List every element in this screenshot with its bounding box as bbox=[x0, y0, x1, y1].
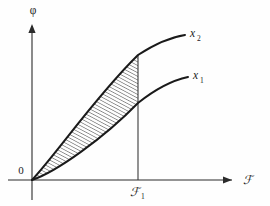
curve-label-x2: x 2 bbox=[189, 27, 201, 43]
x-axis bbox=[8, 176, 232, 183]
y-axis bbox=[28, 24, 35, 200]
diagram-canvas: φ ℱ 0 ℱ 1 x 2 x 1 bbox=[0, 0, 270, 206]
f1-tick-label-subscript: 1 bbox=[141, 192, 145, 201]
origin-label: 0 bbox=[18, 164, 24, 176]
y-axis-arrow-icon bbox=[28, 24, 35, 33]
y-axis-label-phi: φ bbox=[30, 4, 37, 17]
curve-label-x1-subscript: 1 bbox=[200, 76, 204, 85]
x-axis-label-script-f: ℱ bbox=[243, 173, 255, 187]
figure-container: φ ℱ 0 ℱ 1 x 2 x 1 bbox=[0, 0, 270, 206]
curve-label-x1-base: x bbox=[192, 69, 199, 81]
curve-label-x1: x 1 bbox=[192, 69, 204, 85]
curve-label-x2-subscript: 2 bbox=[197, 34, 201, 43]
f1-tick-label: ℱ 1 bbox=[130, 185, 145, 201]
x-axis-arrow-icon bbox=[223, 176, 232, 183]
curve-label-x2-base: x bbox=[189, 27, 196, 39]
